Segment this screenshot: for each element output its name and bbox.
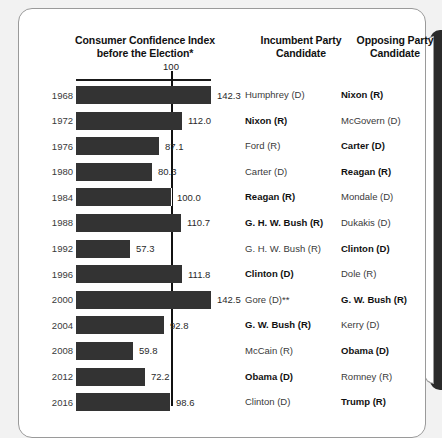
bar-value-label: 72.2	[151, 371, 170, 382]
opposing-candidate: Nixon (R)	[341, 89, 383, 100]
bar-value-label: 111.8	[188, 269, 210, 280]
bar	[76, 86, 212, 104]
bar-value-label: 57.3	[136, 243, 155, 254]
row-year: 1988	[33, 217, 73, 228]
opposing-candidate: Dukakis (D)	[341, 217, 391, 228]
bar	[76, 112, 183, 130]
bar	[76, 137, 160, 155]
incumbent-candidate: Ford (R)	[245, 140, 280, 151]
opposing-header-line1: Opposing Party	[341, 34, 442, 47]
table-row: 1984100.0Reagan (R)Mondale (D)	[19, 185, 442, 211]
incumbent-candidate: McCain (R)	[245, 345, 293, 356]
row-year: 2004	[33, 320, 73, 331]
bar	[76, 214, 182, 232]
table-row: 1996111.8Clinton (D)Dole (R)	[19, 262, 442, 288]
opposing-column-header: Opposing Party Candidate	[341, 34, 442, 59]
chart-card: Consumer Confidence Index before the Ele…	[18, 8, 426, 438]
incumbent-candidate: Carter (D)	[245, 166, 287, 177]
bar-track	[76, 316, 164, 334]
incumbent-candidate: G. H. W. Bush (R)	[245, 243, 321, 254]
bar-value-label: 80.3	[158, 166, 177, 177]
bar-value-label: 142.5	[217, 294, 241, 305]
chart-rows: 1968142.3Humphrey (D)Nixon (R)1972112.0N…	[19, 83, 442, 416]
bar-value-label: 112.0	[188, 115, 211, 126]
row-year: 1996	[33, 269, 73, 280]
opposing-candidate: McGovern (D)	[341, 115, 401, 126]
row-year: 1976	[33, 141, 73, 152]
bar	[76, 240, 131, 258]
bar-value-label: 87.1	[165, 141, 184, 152]
bar-track	[76, 368, 145, 386]
bar-value-label: 110.7	[187, 217, 210, 228]
opposing-candidate: Trump (R)	[341, 396, 386, 407]
bar-track	[76, 188, 171, 206]
bar-track	[76, 393, 170, 411]
table-row: 200859.8McCain (R)Obama (D)	[19, 339, 442, 365]
bar-track	[76, 112, 182, 130]
row-year: 1992	[33, 243, 73, 254]
row-year: 1984	[33, 192, 73, 203]
incumbent-candidate: Gore (D)**	[245, 294, 289, 305]
opposing-candidate: Romney (R)	[341, 371, 392, 382]
bar-value-label: 92.8	[170, 320, 189, 331]
bar-track	[76, 291, 211, 309]
incumbent-candidate: Reagan (R)	[245, 191, 295, 202]
table-row: 1988110.7G. H. W. Bush (R)Dukakis (D)	[19, 211, 442, 237]
bar	[76, 368, 146, 386]
bar-value-label: 98.6	[176, 397, 195, 408]
incumbent-candidate: Obama (D)	[245, 371, 293, 382]
opposing-candidate: Carter (D)	[341, 140, 385, 151]
bar-value-label: 100.0	[177, 192, 201, 203]
table-row: 1972112.0Nixon (R)McGovern (D)	[19, 109, 442, 135]
table-row: 199257.3G. H. W. Bush (R)Clinton (D)	[19, 237, 442, 263]
axis-rule	[76, 79, 211, 81]
opposing-candidate: Mondale (D)	[341, 191, 393, 202]
incumbent-candidate: G. W. Bush (R)	[245, 319, 311, 330]
opposing-candidate: G. W. Bush (R)	[341, 294, 407, 305]
bar-track	[76, 265, 182, 283]
table-row: 197687.1Ford (R)Carter (D)	[19, 134, 442, 160]
bar-value-label: 59.8	[139, 345, 158, 356]
chart-title-line1: Consumer Confidence Index	[52, 34, 238, 47]
opposing-candidate: Dole (R)	[341, 268, 376, 279]
opposing-candidate: Kerry (D)	[341, 319, 380, 330]
row-year: 2012	[33, 371, 73, 382]
bar	[76, 188, 172, 206]
table-row: 201698.6Clinton (D)Trump (R)	[19, 390, 442, 416]
bar-track	[76, 342, 133, 360]
bar-track	[76, 137, 159, 155]
bar	[76, 316, 165, 334]
bar	[76, 163, 153, 181]
bar-track	[76, 163, 152, 181]
opposing-candidate: Obama (D)	[341, 345, 389, 356]
bar-value-label: 142.3	[217, 90, 241, 101]
table-row: 1968142.3Humphrey (D)Nixon (R)	[19, 83, 442, 109]
table-row: 2000142.5Gore (D)**G. W. Bush (R)	[19, 288, 442, 314]
row-year: 1972	[33, 115, 73, 126]
incumbent-candidate: Humphrey (D)	[245, 89, 305, 100]
bar	[76, 265, 183, 283]
bar-track	[76, 214, 181, 232]
row-year: 2016	[33, 397, 73, 408]
opposing-candidate: Reagan (R)	[341, 166, 391, 177]
opposing-header-line2: Candidate	[341, 47, 442, 60]
table-row: 200492.8G. W. Bush (R)Kerry (D)	[19, 313, 442, 339]
row-year: 1968	[33, 90, 73, 101]
chart-title-line2: before the Election*	[52, 47, 238, 60]
bar	[76, 342, 134, 360]
incumbent-candidate: Clinton (D)	[245, 396, 290, 407]
chart-column-header: Consumer Confidence Index before the Ele…	[52, 34, 238, 59]
table-row: 201272.2Obama (D)Romney (R)	[19, 365, 442, 391]
row-year: 1980	[33, 166, 73, 177]
bar-track	[76, 86, 211, 104]
row-year: 2008	[33, 345, 73, 356]
incumbent-candidate: Clinton (D)	[245, 268, 294, 279]
table-row: 198080.3Carter (D)Reagan (R)	[19, 160, 442, 186]
incumbent-candidate: Nixon (R)	[245, 115, 287, 126]
opposing-candidate: Clinton (D)	[341, 243, 390, 254]
bar	[76, 291, 212, 309]
bar	[76, 393, 171, 411]
row-year: 2000	[33, 294, 73, 305]
incumbent-candidate: G. H. W. Bush (R)	[245, 217, 323, 228]
